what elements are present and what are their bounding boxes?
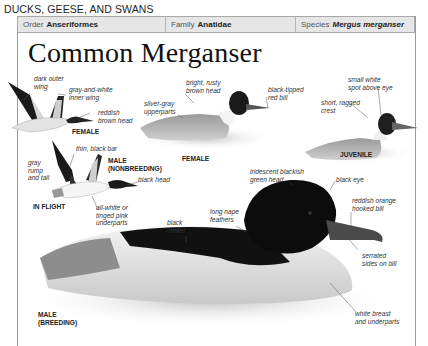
caption-male-nonbreeding: MALE (NONBREEDING)	[108, 157, 162, 172]
label-black-eye: black eye	[336, 176, 364, 184]
label-line: short, ragged	[321, 99, 360, 107]
label-dark-outer-wing: dark outer wing	[34, 75, 64, 90]
label-line: dark outer	[34, 75, 64, 83]
label-line: rump	[28, 167, 49, 175]
label-line: feathers	[210, 216, 239, 224]
label-line: small white	[348, 76, 393, 84]
label-line: sides on bill	[362, 260, 396, 268]
male-breeding-illustration	[20, 180, 400, 328]
label-line: reddish orange	[352, 197, 396, 205]
label-line: green head	[250, 176, 304, 184]
label-underparts: all-white or tinged pink underparts	[96, 204, 128, 227]
label-line: black-tipped	[268, 86, 304, 94]
label-line: reddish	[98, 109, 132, 117]
label-iridescent-head: iridescent blackish green head	[250, 168, 304, 183]
caption-male-breeding: MALE (BREEDING)	[38, 311, 77, 326]
label-line: spot above eye	[348, 84, 393, 92]
label-nape-feathers: long nape feathers	[210, 208, 239, 223]
label-inner-wing: gray-and-white inner wing	[69, 86, 113, 101]
label-black-center: black center	[167, 219, 185, 234]
caption-line: (NONBREEDING)	[108, 165, 162, 173]
label-line: inner wing	[69, 94, 113, 102]
label-black-head: black head	[138, 176, 170, 184]
label-line: and underparts	[355, 318, 399, 326]
label-line: long nape	[210, 208, 239, 216]
label-line: black	[167, 219, 185, 227]
caption-line: (BREEDING)	[38, 319, 77, 327]
caption-in-flight: IN FLIGHT	[33, 203, 65, 211]
label-line: upperparts	[144, 108, 176, 116]
label-silver-upperparts: silver-gray upperparts	[144, 100, 176, 115]
label-gray-rump: gray rump and tail	[28, 159, 49, 182]
caption-juvenile: JUVENILE	[340, 151, 372, 159]
label-line: wing	[34, 83, 64, 91]
label-line: red bill	[268, 94, 304, 102]
label-reddish-head: reddish brown head	[98, 109, 132, 124]
label-line: silver-gray	[144, 100, 176, 108]
label-line: underparts	[96, 219, 128, 227]
label-line: and tail	[28, 174, 49, 182]
label-line: center	[167, 227, 185, 235]
caption-female-flight: FEMALE	[72, 128, 99, 136]
label-line: hooked bill	[352, 205, 396, 213]
label-line: bright, rusty	[186, 79, 220, 87]
label-ragged-crest: short, ragged crest	[321, 99, 360, 114]
label-white-breast: white breast and underparts	[355, 310, 399, 325]
label-hooked-bill: reddish orange hooked bill	[352, 197, 396, 212]
label-line: serrated	[362, 252, 396, 260]
label-line: all-white or	[96, 204, 128, 212]
label-line: brown head	[98, 117, 132, 125]
label-black-tipped-bill: black-tipped red bill	[268, 86, 304, 101]
label-line: brown head	[186, 87, 220, 95]
label-line: iridescent blackish	[250, 168, 304, 176]
caption-female-swimming: FEMALE	[182, 155, 209, 163]
label-line: tinged pink	[96, 212, 128, 220]
caption-line: MALE	[38, 311, 77, 319]
label-serrated-bill: serrated sides on bill	[362, 252, 396, 267]
label-line: gray	[28, 159, 49, 167]
label-line: gray-and-white	[69, 86, 113, 94]
label-rusty-head: bright, rusty brown head	[186, 79, 220, 94]
label-line: crest	[321, 107, 360, 115]
caption-line: MALE	[108, 157, 162, 165]
label-white-spot: small white spot above eye	[348, 76, 393, 91]
label-thin-black-bar: thin, black bar	[76, 145, 117, 153]
label-line: white breast	[355, 310, 399, 318]
